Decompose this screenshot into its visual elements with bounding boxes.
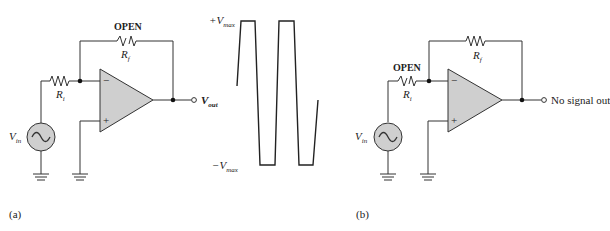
ri-label-b: Ri [402,88,412,103]
noninverting-input-sign: + [103,114,109,126]
ground-icon [380,174,396,180]
vmax-neg-label: −Vmax [212,159,239,174]
vin-label: Vin [9,130,22,145]
rf-resistor-icon [466,36,485,46]
rf-label: Rf [120,48,131,63]
inverting-input-sign: − [103,74,109,86]
figure-a-caption: (a) [9,208,22,221]
no-signal-out-label: No signal out [551,94,610,106]
rf-label-b: Rf [472,49,483,64]
noninverting-input-sign-b: + [451,114,457,126]
ri-open-label: OPEN [393,62,422,73]
ground-icon [72,174,88,180]
ri-label: Ri [55,88,65,103]
rf-open-resistor-icon [117,36,136,46]
ground-icon [33,174,49,180]
circuit-a: OPEN Rf Ri − + Vout Vin (a) [9,21,219,221]
ri-open-resistor-icon [398,76,416,86]
output-waveform: +Vmax −Vmax [209,14,318,174]
output-terminal-b [542,98,547,103]
vin-label-b: Vin [355,130,368,145]
vmax-pos-label: +Vmax [209,14,236,29]
output-terminal-a [192,98,197,103]
inverting-input-sign-b: − [451,74,457,86]
ground-icon [420,174,436,180]
vout-label: Vout [201,94,219,109]
circuit-b: Rf OPEN Ri − + No signal out Vin [355,36,610,221]
ri-resistor-icon [50,76,69,86]
rf-open-label: OPEN [114,21,143,32]
opamp-fault-figure: OPEN Rf Ri − + Vout Vin (a) [0,0,610,231]
figure-b-caption: (b) [356,208,369,221]
